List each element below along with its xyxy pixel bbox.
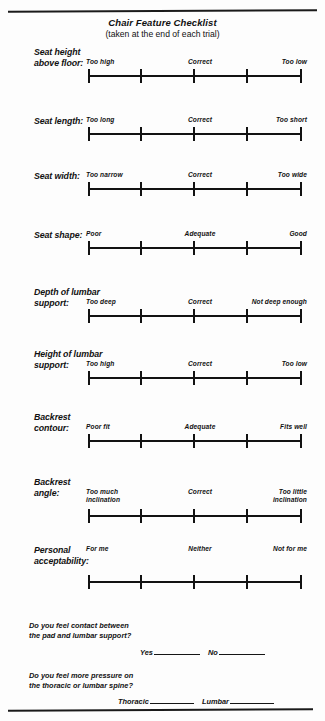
anchor-right: Not deep enough <box>252 298 307 306</box>
anchor-labels: Too narrow Correct Too wide <box>86 171 314 182</box>
row-label-line1: Seat length: <box>34 116 83 126</box>
anchor-right: Too short <box>276 116 307 124</box>
scale-tick[interactable] <box>88 69 90 83</box>
answer-option[interactable]: No <box>208 646 265 657</box>
answer-blank[interactable] <box>219 646 265 655</box>
scale-tick[interactable] <box>246 309 248 323</box>
row-label-line2: contour: <box>34 423 69 433</box>
scale-tick[interactable] <box>300 434 302 448</box>
rating-scale[interactable] <box>88 127 302 141</box>
scale-tick[interactable] <box>193 309 195 323</box>
row-label-line2: support: <box>34 360 69 370</box>
scale-tick[interactable] <box>246 182 248 196</box>
scale-tick[interactable] <box>193 434 195 448</box>
scale-tick[interactable] <box>193 182 195 196</box>
top-divider <box>8 9 317 12</box>
scale-tick[interactable] <box>193 241 195 255</box>
form-page: Chair Feature Checklist (taken at the en… <box>0 0 325 721</box>
question-text: Do you feel more pressure on the thoraci… <box>29 671 229 690</box>
rating-scale[interactable] <box>88 434 302 448</box>
answer-blank[interactable] <box>230 695 274 704</box>
scale-tick[interactable] <box>140 241 142 255</box>
scale-tick[interactable] <box>300 509 302 523</box>
row-label-line1: Seat height <box>34 47 80 57</box>
scale-tick[interactable] <box>300 241 302 255</box>
scale-tick[interactable] <box>88 509 90 523</box>
scale-tick[interactable] <box>140 434 142 448</box>
anchor-right: Too wide <box>278 171 307 179</box>
anchor-right: Too little inclination <box>273 488 307 504</box>
scale-tick[interactable] <box>246 509 248 523</box>
scale-tick[interactable] <box>140 69 142 83</box>
scale-axis <box>88 315 302 317</box>
scale-tick[interactable] <box>193 69 195 83</box>
answer-blank[interactable] <box>150 695 194 704</box>
scale-tick[interactable] <box>88 575 90 589</box>
scale-tick[interactable] <box>300 127 302 141</box>
scale-tick[interactable] <box>246 127 248 141</box>
bottom-divider <box>8 708 313 712</box>
row-label-line1: Depth of lumbar <box>34 287 100 297</box>
rating-scale[interactable] <box>88 371 302 385</box>
scale-tick[interactable] <box>140 127 142 141</box>
anchor-mid: Correct <box>86 360 314 368</box>
scale-tick[interactable] <box>246 69 248 83</box>
answer-option[interactable]: Thoracic <box>118 695 194 706</box>
answer-option[interactable]: Lumbar <box>202 695 274 706</box>
scale-tick[interactable] <box>246 575 248 589</box>
scale-tick[interactable] <box>88 434 90 448</box>
question-text-line1: Do you feel more pressure on <box>29 671 133 680</box>
scale-axis <box>88 133 302 135</box>
answer-label: No <box>208 648 218 657</box>
anchor-right-line1: Too little <box>279 488 307 495</box>
scale-tick[interactable] <box>300 69 302 83</box>
scale-tick[interactable] <box>140 309 142 323</box>
scale-tick[interactable] <box>88 309 90 323</box>
rating-scale[interactable] <box>88 509 302 523</box>
answer-blank[interactable] <box>154 646 200 655</box>
anchor-labels: Too high Correct Too low <box>86 58 314 69</box>
anchor-right: Good <box>289 230 307 238</box>
scale-axis <box>88 75 302 77</box>
anchor-labels: Too long Correct Too short <box>86 116 314 127</box>
scale-tick[interactable] <box>140 371 142 385</box>
scale-tick[interactable] <box>193 127 195 141</box>
scale-tick[interactable] <box>300 309 302 323</box>
anchor-right: Too low <box>282 58 307 66</box>
question-text-line2: the thoracic or lumbar spine? <box>29 681 133 690</box>
scale-tick[interactable] <box>88 182 90 196</box>
anchor-labels: For me Neither Not for me <box>86 545 314 556</box>
scale-tick[interactable] <box>246 371 248 385</box>
scale-tick[interactable] <box>246 434 248 448</box>
rating-scale[interactable] <box>88 575 302 589</box>
answer-option[interactable]: Yes <box>140 646 200 657</box>
rating-scale[interactable] <box>88 241 302 255</box>
scale-axis <box>88 581 302 583</box>
scale-tick[interactable] <box>140 182 142 196</box>
scale-tick[interactable] <box>140 575 142 589</box>
scale-tick[interactable] <box>193 575 195 589</box>
scale-tick[interactable] <box>246 241 248 255</box>
question-text-line2: the pad and lumbar support? <box>29 631 131 640</box>
answer-label: Lumbar <box>202 697 229 706</box>
scale-tick[interactable] <box>300 371 302 385</box>
scale-tick[interactable] <box>300 575 302 589</box>
rating-scale[interactable] <box>88 69 302 83</box>
rating-scale[interactable] <box>88 309 302 323</box>
question-text-line1: Do you feel contact between <box>29 621 129 630</box>
scale-tick[interactable] <box>88 371 90 385</box>
anchor-left-line2: inclination <box>86 496 120 504</box>
row-label-line1: Personal <box>34 545 70 555</box>
anchor-mid: Adequate <box>86 230 314 238</box>
answer-label: Thoracic <box>118 697 149 706</box>
row-label-line2: support: <box>34 298 69 308</box>
scale-tick[interactable] <box>300 182 302 196</box>
scale-tick[interactable] <box>193 509 195 523</box>
scale-tick[interactable] <box>193 371 195 385</box>
rating-scale[interactable] <box>88 182 302 196</box>
scale-axis <box>88 515 302 517</box>
scale-tick[interactable] <box>88 241 90 255</box>
scale-tick[interactable] <box>140 509 142 523</box>
scale-tick[interactable] <box>88 127 90 141</box>
row-label-line2: acceptability: <box>34 556 89 566</box>
